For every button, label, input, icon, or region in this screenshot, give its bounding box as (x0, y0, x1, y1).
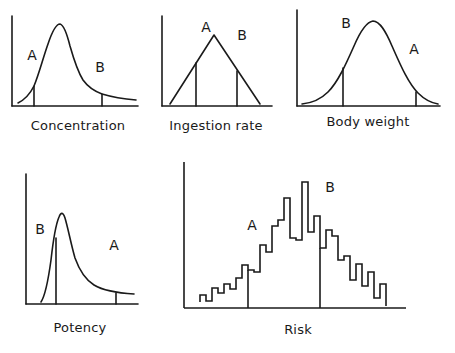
marker-label-b: B (95, 59, 105, 75)
marker-label-a: A (109, 237, 119, 253)
chart-potency: B A (22, 172, 142, 312)
caption-concentration: Concentration (8, 118, 148, 133)
caption-potency: Potency (20, 320, 140, 335)
chart-body-weight: B A (292, 6, 444, 114)
marker-label-a: A (409, 41, 419, 57)
marker-label-b: B (237, 27, 247, 43)
marker-label-a: A (201, 19, 211, 35)
chart-ingestion-rate: A B (158, 14, 276, 114)
curve-ingestion-rate (170, 35, 260, 104)
marker-label-b: B (35, 221, 45, 237)
marker-label-b: B (341, 15, 351, 31)
chart-risk: A B (178, 160, 410, 315)
curve-potency (41, 213, 134, 302)
marker-label-a: A (247, 217, 257, 233)
figure-panel-grid: A B Concentration A B Ingestion rate B A… (0, 0, 455, 353)
chart-concentration: A B (8, 14, 142, 114)
curve-concentration (18, 24, 136, 103)
marker-label-a: A (27, 47, 37, 63)
caption-ingestion-rate: Ingestion rate (152, 118, 280, 133)
curve-body-weight (302, 21, 438, 104)
marker-label-b: B (325, 179, 335, 195)
caption-body-weight: Body weight (288, 114, 448, 129)
caption-risk: Risk (188, 322, 408, 337)
histogram-risk (200, 182, 386, 306)
